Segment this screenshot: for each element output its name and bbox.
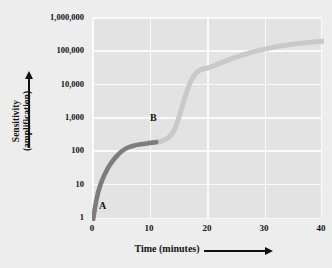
y-axis-title-line2: (amplification) (22, 91, 32, 151)
x-tick-label: 40 (306, 223, 332, 233)
x-tick-label: 30 (249, 223, 279, 233)
x-tick-label: 10 (134, 223, 164, 233)
annotation-b: B (150, 112, 157, 123)
y-axis-ticks: 1,000,000 100,000 10,000 1,000 100 10 1 (0, 0, 332, 268)
y-tick-label: 1 (28, 212, 84, 222)
x-axis-title: Time (minutes) (92, 243, 242, 254)
x-tick-label: 20 (192, 223, 222, 233)
y-axis-title: Sensitivity (amplification) (11, 61, 33, 181)
y-axis-title-line1: Sensitivity (11, 100, 21, 142)
y-tick-label: 1,000 (28, 112, 84, 122)
y-tick-label: 10,000 (28, 79, 84, 89)
y-tick-label: 1,000,000 (28, 12, 84, 22)
y-tick-label: 100 (28, 145, 84, 155)
y-tick-label: 100,000 (28, 45, 84, 55)
figure-container: 1,000,000 100,000 10,000 1,000 100 10 1 … (0, 0, 332, 268)
y-tick-label: 10 (28, 179, 84, 189)
x-axis-arrow-icon (204, 250, 266, 252)
x-tick-label: 0 (77, 223, 107, 233)
annotation-a: A (99, 200, 106, 211)
